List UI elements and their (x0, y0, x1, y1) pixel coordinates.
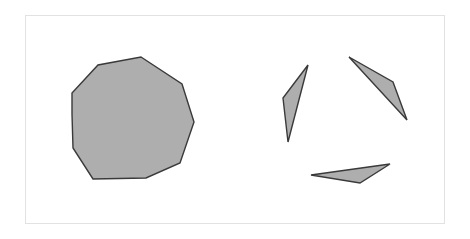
figure-canvas (0, 0, 470, 239)
shapes-figure (0, 0, 470, 239)
figure-background (0, 0, 470, 239)
